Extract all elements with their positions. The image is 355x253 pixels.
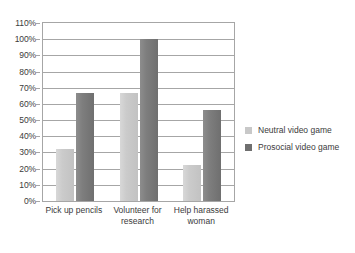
y-axis-tick-label: 100% bbox=[15, 35, 36, 44]
x-axis-label-2: Volunteer forresearch bbox=[106, 205, 170, 227]
legend-swatch-icon bbox=[245, 127, 252, 134]
y-axis-tick-mark bbox=[36, 152, 40, 153]
bar-neutral-1 bbox=[56, 149, 74, 201]
bar-prosocial-1 bbox=[76, 93, 94, 201]
y-axis-tick-label: 50% bbox=[19, 116, 36, 125]
y-axis-tick-mark bbox=[36, 23, 40, 24]
y-axis-tick-mark bbox=[36, 55, 40, 56]
x-axis-label-line: Volunteer for bbox=[106, 205, 170, 216]
x-axis-labels: Pick up pencilsVolunteer forresearchHelp… bbox=[42, 205, 235, 245]
bar-prosocial-3 bbox=[203, 110, 221, 201]
bar-neutral-2 bbox=[120, 93, 138, 201]
y-axis-tick-mark bbox=[36, 185, 40, 186]
y-axis-tick-mark bbox=[36, 201, 40, 202]
legend-item-prosocial[interactable]: Prosocial video game bbox=[245, 141, 339, 154]
x-axis-label-line: research bbox=[106, 216, 170, 227]
bar-prosocial-2 bbox=[140, 39, 158, 201]
y-axis-tick-mark bbox=[36, 169, 40, 170]
y-axis-tick-mark bbox=[36, 88, 40, 89]
legend-item-neutral[interactable]: Neutral video game bbox=[245, 124, 339, 137]
y-axis: 0%10%20%30%40%50%60%70%80%90%100%110% bbox=[0, 22, 40, 202]
y-axis-tick-label: 70% bbox=[19, 83, 36, 92]
x-axis-label-line: Pick up pencils bbox=[42, 205, 106, 216]
legend-label: Prosocial video game bbox=[258, 141, 339, 154]
y-axis-tick-mark bbox=[36, 120, 40, 121]
y-axis-tick-label: 60% bbox=[19, 100, 36, 109]
y-axis-tick-label: 30% bbox=[19, 148, 36, 157]
y-axis-tick-label: 10% bbox=[19, 181, 36, 190]
x-axis-label-1: Pick up pencils bbox=[42, 205, 106, 216]
y-axis-tick-mark bbox=[36, 39, 40, 40]
y-axis-tick-label: 40% bbox=[19, 132, 36, 141]
bar-chart: 0%10%20%30%40%50%60%70%80%90%100%110% Pi… bbox=[0, 0, 355, 253]
y-axis-tick-label: 0% bbox=[24, 197, 36, 206]
x-axis-label-3: Help harassedwoman bbox=[169, 205, 233, 227]
y-axis-tick-label: 110% bbox=[15, 19, 36, 28]
legend-label: Neutral video game bbox=[258, 124, 332, 137]
bar-neutral-3 bbox=[183, 165, 201, 201]
legend-swatch-icon bbox=[245, 144, 252, 151]
y-axis-tick-mark bbox=[36, 72, 40, 73]
x-axis-label-line: woman bbox=[169, 216, 233, 227]
y-axis-tick-label: 20% bbox=[19, 164, 36, 173]
chart-legend: Neutral video gameProsocial video game bbox=[245, 124, 339, 158]
bars-container bbox=[43, 23, 234, 201]
y-axis-tick-label: 80% bbox=[19, 67, 36, 76]
y-axis-tick-label: 90% bbox=[19, 51, 36, 60]
x-axis-label-line: Help harassed bbox=[169, 205, 233, 216]
y-axis-tick-mark bbox=[36, 136, 40, 137]
y-axis-tick-mark bbox=[36, 104, 40, 105]
